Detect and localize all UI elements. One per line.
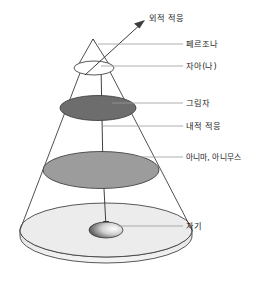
ego-disk xyxy=(74,61,114,75)
shadow-disk xyxy=(60,96,136,121)
psyche-structure-diagram: 외적 적응 페르조나 자아(나) 그림자 내적 적응 아니마, 아니무스 자기 xyxy=(0,0,270,281)
self-disk xyxy=(89,222,123,238)
label-self: 자기 xyxy=(186,221,202,231)
label-shadow: 그림자 xyxy=(186,98,210,108)
label-persona: 페르조나 xyxy=(186,39,218,49)
label-ego: 자아(나) xyxy=(186,61,217,71)
external-adaptation-arrowhead xyxy=(134,20,145,29)
label-anima-animus: 아니마, 아니무스 xyxy=(186,152,241,162)
label-internal-adaptation: 내적 적응 xyxy=(186,121,221,131)
diagram-canvas: 외적 적응 페르조나 자아(나) 그림자 내적 적응 아니마, 아니무스 자기 xyxy=(0,0,270,281)
label-external-adaptation: 외적 적응 xyxy=(149,13,184,23)
